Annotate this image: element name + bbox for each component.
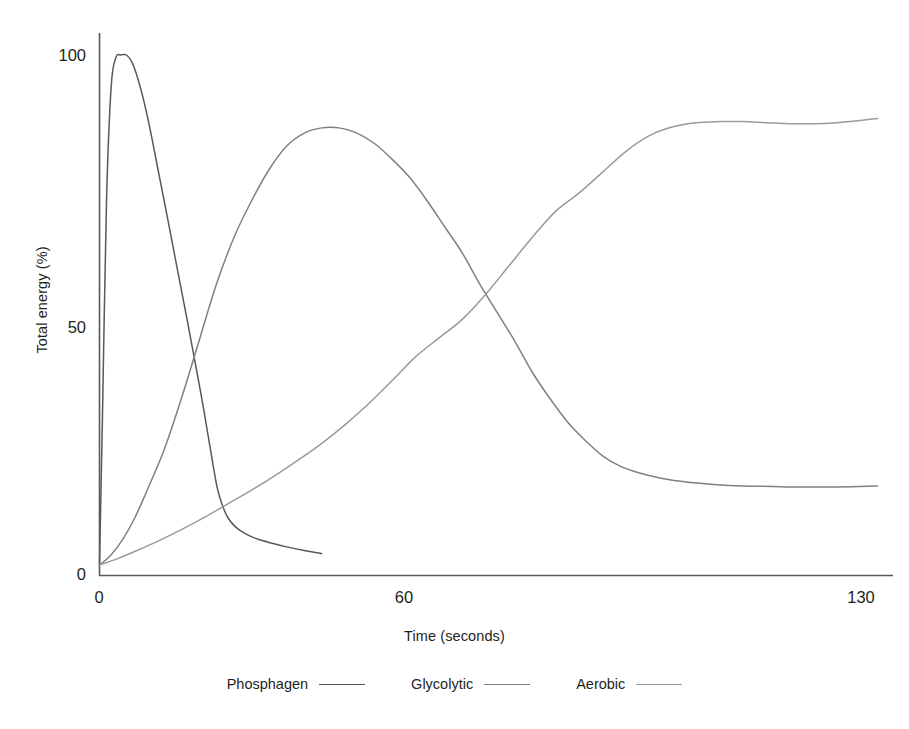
- y-tick-label-50: 50: [40, 319, 86, 336]
- series-line-glycolytic: [100, 127, 878, 565]
- y-axis-title: Total energy (%): [34, 170, 50, 430]
- chart-legend: PhosphagenGlycolyticAerobic: [0, 676, 909, 692]
- y-tick-label-0: 0: [40, 566, 86, 583]
- legend-label: Glycolytic: [411, 676, 473, 692]
- x-tick-label-0: 0: [64, 589, 134, 606]
- legend-label: Aerobic: [576, 676, 625, 692]
- energy-systems-chart-figure: Total energy (%) 100 50 0 0 60 130 Time …: [0, 0, 909, 729]
- y-tick-label-100: 100: [40, 47, 86, 64]
- chart-plot-area: [0, 0, 909, 729]
- series-line-aerobic: [100, 119, 878, 566]
- series-layer: [100, 54, 878, 565]
- x-tick-label-60: 60: [369, 589, 439, 606]
- legend-label: Phosphagen: [227, 676, 308, 692]
- x-tick-label-130: 130: [826, 589, 896, 606]
- legend-line-swatch: [636, 684, 682, 685]
- series-line-phosphagen: [100, 54, 322, 565]
- legend-line-swatch: [319, 684, 365, 685]
- legend-line-swatch: [484, 684, 530, 685]
- legend-entry-glycolytic[interactable]: Glycolytic: [411, 676, 530, 692]
- x-axis-title: Time (seconds): [0, 628, 909, 644]
- legend-entry-phosphagen[interactable]: Phosphagen: [227, 676, 365, 692]
- legend-entry-aerobic[interactable]: Aerobic: [576, 676, 682, 692]
